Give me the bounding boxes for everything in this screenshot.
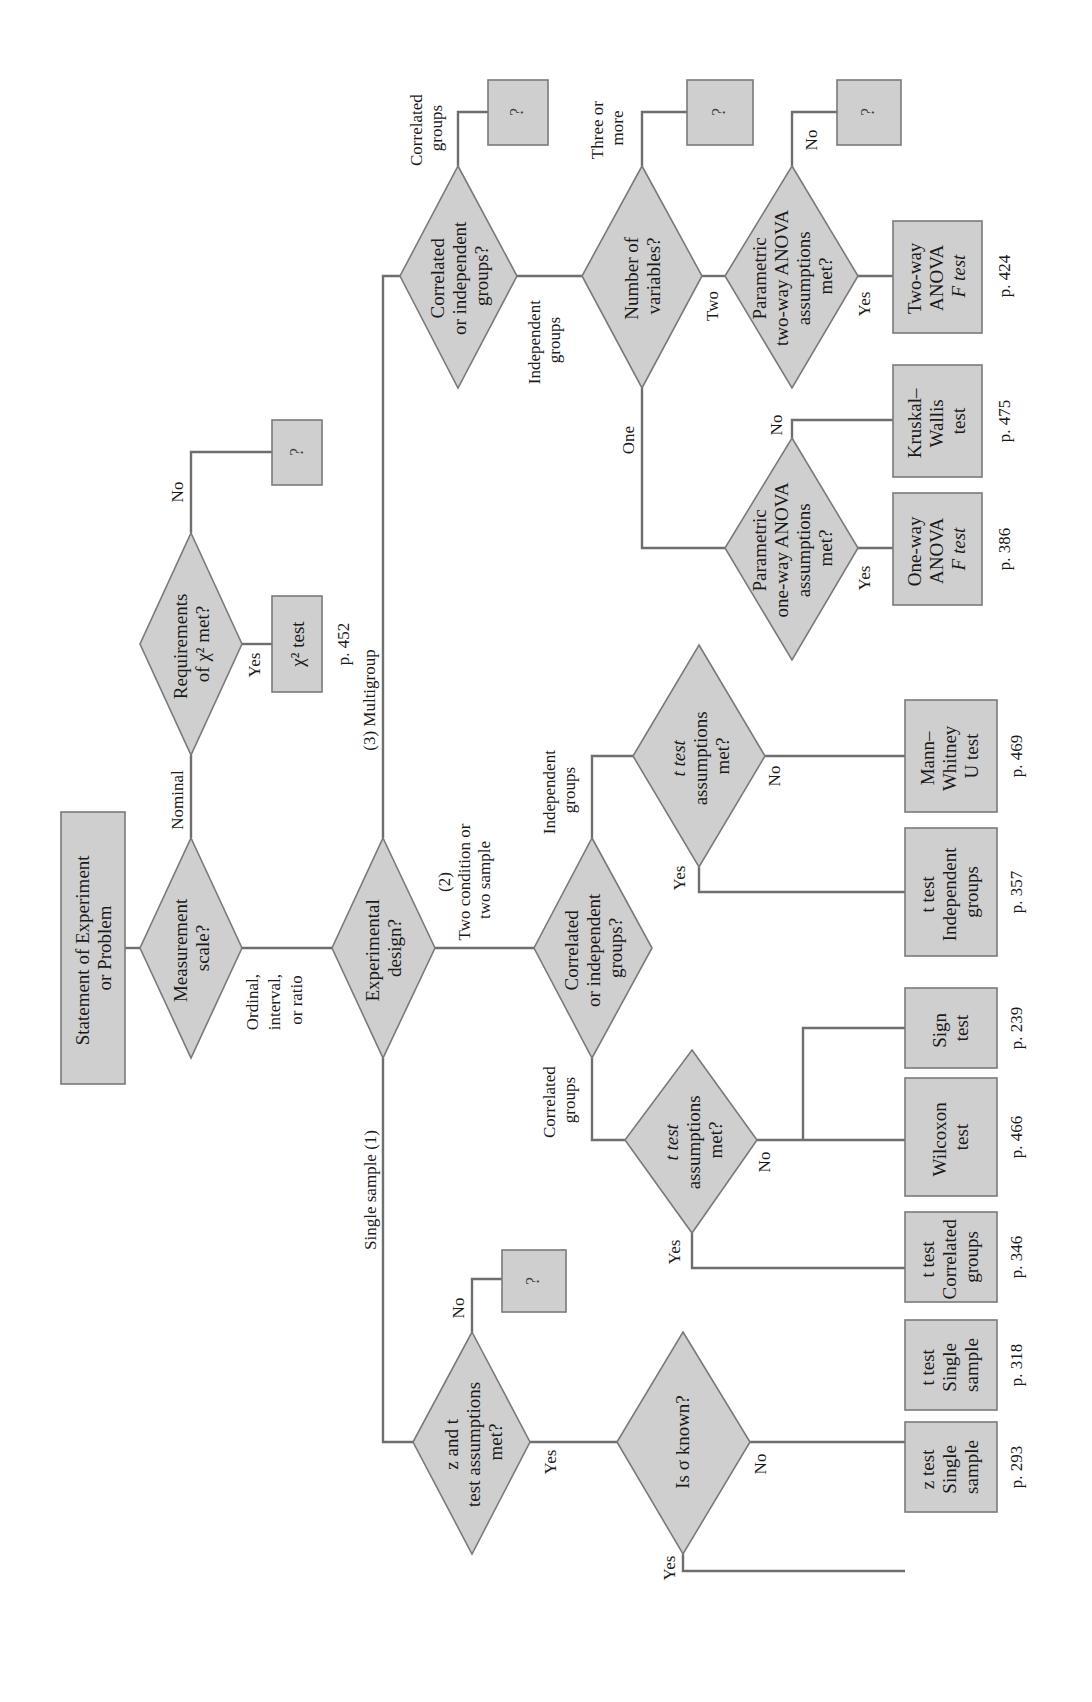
label-ind-no: No <box>765 766 784 787</box>
label-sigma-yes: Yes <box>660 1556 679 1581</box>
edge-sigma-yes <box>683 1554 905 1571</box>
sign-test-box[interactable]: Sign test <box>905 988 997 1068</box>
chi-req-line-2: of χ² met? <box>192 606 213 682</box>
t-single-line-3: sample <box>961 1338 982 1392</box>
oneway-q-line-4: met? <box>815 530 836 567</box>
edge-oneway-no <box>792 420 893 438</box>
twoway-q-line-4: met? <box>815 258 836 295</box>
one-way-anova-test-box[interactable]: One-way ANOVA F test <box>893 493 982 605</box>
multigroup-correlated-unknown-box[interactable]: ? <box>488 80 548 145</box>
two-way-anova-assumptions-diamond[interactable]: Parametric two-way ANOVA assumptions met… <box>725 166 858 388</box>
label-corr-yes: Yes <box>665 1240 684 1265</box>
mann-line-3: U test <box>961 733 982 779</box>
edge-multigroup <box>383 276 400 838</box>
measurement-line-2: scale? <box>192 925 213 971</box>
ind-t-test-line-3: groups <box>961 866 982 918</box>
independent-t-test-box[interactable]: t test Independent groups <box>905 828 997 956</box>
label-oneway-no: No <box>767 415 786 436</box>
label-two-condition-3: two sample <box>475 841 494 919</box>
correlated-t-assumptions-diamond[interactable]: t test assumptions met? <box>625 1050 757 1233</box>
start-box[interactable]: Statement of Experiment or Problem <box>61 812 125 1084</box>
design-line-2: design? <box>384 919 405 977</box>
corr-t-test-line-1: t test <box>917 1240 938 1277</box>
two-way-anova-test-box[interactable]: Two-way ANOVA F test <box>893 221 982 333</box>
label-three-or-more-2: more <box>608 111 627 146</box>
t-single-sample-test-box[interactable]: t test Single sample <box>905 1320 997 1410</box>
ind-t-test-page: p. 357 <box>1007 870 1026 913</box>
correlated-t-test-box[interactable]: t test Correlated groups <box>905 1212 997 1302</box>
zt-unknown-label: ? <box>523 1277 543 1285</box>
svg-text:Number of variables?: Number of variables? <box>621 232 664 320</box>
svg-text:Correlated groups: Correlated groups <box>407 90 446 166</box>
flowchart: Statement of Experiment or Problem Measu… <box>0 0 1092 1702</box>
svg-text:z test Single: z test Single sample <box>917 1440 982 1494</box>
corr-t-q-line-1: t test <box>661 1123 682 1160</box>
label-ordinal-1: Ordinal, <box>243 974 262 1030</box>
number-of-variables-diamond[interactable]: Number of variables? <box>582 166 702 388</box>
label-two-condition-1: (2) <box>435 872 454 892</box>
two-way-unknown-box[interactable]: ? <box>837 80 901 145</box>
t-single-line-1: t test <box>917 1348 938 1385</box>
oneway-test-line-1: One-way <box>904 516 925 586</box>
twoway-test-line-3: F test <box>948 254 969 298</box>
z-single-sample-test-box[interactable]: z test Single sample <box>905 1422 997 1512</box>
t-single-page: p. 318 <box>1007 1344 1026 1387</box>
edge-corr-no-sign <box>803 1028 905 1140</box>
wilcoxon-test-box[interactable]: Wilcoxon test <box>905 1078 997 1196</box>
z-single-line-2: Single <box>939 1445 960 1494</box>
start-line-2: or Problem <box>94 905 115 990</box>
label-two-correlated-1: Correlated <box>540 1066 559 1138</box>
chi-unknown-box[interactable]: ? <box>272 420 322 485</box>
label-three-or-more-1: Three or <box>588 101 607 159</box>
mann-line-2: Whitney <box>939 725 960 791</box>
label-twoway-no: No <box>802 130 821 151</box>
svg-text:Independent groups: Independent groups <box>540 746 579 834</box>
label-oneway-yes: Yes <box>855 566 874 591</box>
one-way-anova-assumptions-diamond[interactable]: Parametric one-way ANOVA assumptions met… <box>725 438 858 660</box>
sign-line-2: test <box>951 1014 972 1041</box>
label-sigma-no: No <box>751 1454 770 1475</box>
oneway-q-line-2: one-way ANOVA <box>771 482 792 618</box>
chi-square-test-box[interactable]: χ² test <box>272 596 322 692</box>
label-multi-correlated-2: groups <box>427 105 446 151</box>
measurement-line-1: Measurement <box>170 898 191 1002</box>
z-t-unknown-box[interactable]: ? <box>502 1250 566 1312</box>
twoway-q-line-1: Parametric <box>749 237 770 319</box>
z-single-page: p. 293 <box>1007 1446 1026 1489</box>
oneway-q-line-1: Parametric <box>749 509 770 591</box>
multigroup-correlated-diamond[interactable]: Correlated or independent groups? <box>400 166 517 388</box>
label-ordinal-2: interval, <box>265 974 284 1030</box>
svg-text:Correlated groups: Correlated groups <box>540 1062 579 1138</box>
oneway-test-page: p. 386 <box>995 528 1014 571</box>
edge-corr-yes <box>692 1233 905 1268</box>
kruskal-wallis-test-box[interactable]: Kruskal– Wallis test <box>893 365 982 477</box>
num-vars-unknown-label: ? <box>709 108 729 116</box>
svg-text:(2) Two condition or: (2) Two condition or two sample <box>435 819 494 940</box>
chi-test-page: p. 452 <box>334 623 353 666</box>
svg-text:t test Single: t test Single sample <box>917 1338 982 1392</box>
label-chi-yes: Yes <box>245 653 264 678</box>
twoway-test-line-1: Two-way <box>904 242 925 314</box>
svg-text:Ordinal, interval,: Ordinal, interval, or ratio <box>243 970 306 1030</box>
independent-t-assumptions-diamond[interactable]: t test assumptions met? <box>633 645 765 867</box>
chi-test-label: χ² test <box>287 621 308 668</box>
label-two: Two <box>703 291 722 321</box>
three-or-more-unknown-box[interactable]: ? <box>687 80 753 145</box>
two-sample-correlated-diamond[interactable]: Correlated or independent groups? <box>534 838 652 1058</box>
chi-square-requirements-diamond[interactable]: Requirements of χ² met? <box>140 533 242 755</box>
experimental-design-diamond[interactable]: Experimental design? <box>332 838 435 1058</box>
measurement-scale-diamond[interactable]: Measurement scale? <box>140 838 242 1058</box>
sigma-known-diamond[interactable]: Is σ known? <box>617 1332 750 1554</box>
edge-two-correlated <box>592 1058 625 1140</box>
kruskal-line-2: Wallis <box>926 399 947 447</box>
mann-whitney-test-box[interactable]: Mann– Whitney U test <box>905 700 997 812</box>
z-t-assumptions-diamond[interactable]: z and t test assumptions met? <box>413 1332 530 1554</box>
edge-multi-correlated <box>458 112 488 166</box>
corr-t-q-line-2: assumptions <box>683 1095 704 1189</box>
edge-single-sample <box>383 1058 413 1442</box>
kruskal-line-3: test <box>948 407 969 434</box>
start-line-1: Statement of Experiment <box>72 855 93 1046</box>
edge-one <box>642 388 725 548</box>
label-multi-correlated-1: Correlated <box>407 94 426 166</box>
edge-two-independent <box>592 756 633 838</box>
